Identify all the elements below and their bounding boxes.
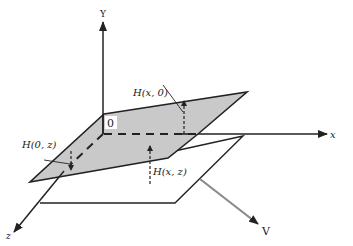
height-x0-label: H(x, 0): [132, 87, 168, 98]
inclined-plane: [30, 92, 247, 182]
velocity-arrow: [200, 179, 258, 224]
height-0z-label: H(0, z): [21, 139, 57, 150]
velocity-label: V: [261, 225, 271, 238]
z-axis-label: z: [5, 231, 11, 241]
y-axis-label: Y: [99, 9, 107, 19]
plane-height-diagram: 0 Y x z H(x, 0) H(0, z) H(x, z) V: [0, 0, 353, 246]
origin-label: 0: [107, 117, 114, 130]
height-xz-label: H(x, z): [152, 166, 187, 177]
x-axis-label: x: [330, 129, 336, 140]
